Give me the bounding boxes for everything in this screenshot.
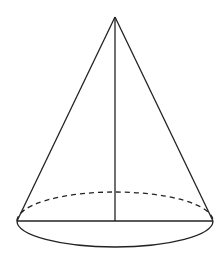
left-slant-edge [17, 17, 115, 221]
base-front-arc [17, 221, 213, 247]
cone-diagram [0, 0, 217, 267]
cone-figure [0, 0, 217, 267]
right-slant-edge [115, 17, 213, 221]
